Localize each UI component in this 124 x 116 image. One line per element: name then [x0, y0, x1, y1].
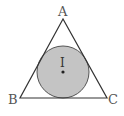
vertex-label-c: C	[108, 92, 118, 107]
triangle-incircle-diagram: A B C I	[0, 0, 124, 116]
vertex-label-a: A	[57, 4, 68, 19]
incenter-point	[61, 70, 64, 73]
incenter-label: I	[60, 56, 65, 70]
vertex-label-b: B	[8, 92, 18, 107]
